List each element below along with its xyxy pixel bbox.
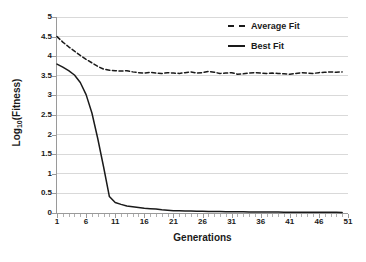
x-tick-mark <box>284 214 285 217</box>
x-tick-mark <box>86 214 87 218</box>
x-tick-mark <box>342 214 343 217</box>
x-tick-mark <box>313 214 314 217</box>
y-tick-mark <box>52 135 57 136</box>
x-tick-mark <box>63 214 64 217</box>
solid-line-icon <box>228 45 245 47</box>
x-tick-mark <box>272 214 273 217</box>
x-tick-mark <box>220 214 221 217</box>
x-tick-mark <box>296 214 297 217</box>
data-series-layer <box>57 17 348 213</box>
y-tick-mark <box>52 115 57 116</box>
x-tick-label: 21 <box>169 217 178 226</box>
x-tick-mark <box>92 214 93 217</box>
x-tick-mark <box>336 214 337 217</box>
x-tick-mark <box>249 214 250 217</box>
y-tick-mark <box>52 37 57 38</box>
series-line-best-fit <box>57 64 342 212</box>
x-tick-label: 11 <box>111 217 119 226</box>
x-tick-mark <box>191 214 192 217</box>
x-tick-label: 1 <box>55 217 59 226</box>
y-tick-label: 0.5 <box>41 188 52 197</box>
x-axis-tick-labels: 16111621263136414651 <box>0 217 366 229</box>
y-tick-mark <box>52 95 57 96</box>
x-tick-label: 51 <box>344 217 353 226</box>
y-tick-mark <box>52 17 57 18</box>
x-tick-mark <box>325 214 326 217</box>
x-tick-mark <box>156 214 157 217</box>
y-axis-title-subscript: 10 <box>16 120 23 128</box>
y-tick-mark <box>52 193 57 194</box>
x-tick-mark <box>74 214 75 217</box>
x-tick-mark <box>127 214 128 217</box>
x-tick-mark <box>115 214 116 218</box>
x-tick-label: 6 <box>84 217 88 226</box>
fitness-convergence-chart: 00.511.522.533.544.55 161116212631364146… <box>0 0 366 262</box>
y-tick-label: 3.5 <box>41 71 52 80</box>
x-axis-title: Generations <box>57 232 348 243</box>
x-tick-mark <box>267 214 268 217</box>
x-tick-mark <box>138 214 139 217</box>
x-tick-mark <box>173 214 174 218</box>
legend-entry-average-fit: Average Fit <box>228 20 300 31</box>
y-tick-mark <box>52 154 57 155</box>
x-tick-mark <box>179 214 180 217</box>
x-tick-mark <box>144 214 145 218</box>
x-tick-mark <box>232 214 233 218</box>
y-tick-label: 4.5 <box>41 32 52 41</box>
x-tick-mark <box>168 214 169 217</box>
y-axis-title: Log10(Fitness) <box>11 43 22 183</box>
x-tick-mark <box>255 214 256 217</box>
x-tick-mark <box>348 214 349 218</box>
legend-label-best-fit: Best Fit <box>251 41 284 51</box>
y-tick-mark <box>52 56 57 57</box>
x-tick-mark <box>104 214 105 217</box>
x-tick-mark <box>80 214 81 217</box>
x-tick-label: 41 <box>285 217 294 226</box>
dashed-line-icon <box>228 25 245 27</box>
x-tick-mark <box>57 214 58 218</box>
plot-area <box>57 17 348 213</box>
x-tick-mark <box>237 214 238 217</box>
x-tick-mark <box>208 214 209 217</box>
y-tick-mark <box>52 76 57 77</box>
x-tick-mark <box>203 214 204 218</box>
x-tick-mark <box>69 214 70 217</box>
x-tick-mark <box>121 214 122 217</box>
x-tick-mark <box>162 214 163 217</box>
x-tick-label: 26 <box>198 217 207 226</box>
x-tick-mark <box>133 214 134 217</box>
x-tick-mark <box>307 214 308 217</box>
legend-entry-best-fit: Best Fit <box>228 40 300 51</box>
y-axis-title-base: Log <box>11 128 22 146</box>
y-axis-title-tail: (Fitness) <box>11 79 22 121</box>
x-tick-mark <box>290 214 291 218</box>
x-tick-mark <box>150 214 151 217</box>
x-tick-mark <box>261 214 262 218</box>
legend-label-average-fit: Average Fit <box>251 21 300 31</box>
x-tick-mark <box>197 214 198 217</box>
y-tick-label: 2.5 <box>41 110 52 119</box>
x-tick-mark <box>319 214 320 218</box>
x-tick-mark <box>301 214 302 217</box>
chart-legend: Average Fit Best Fit <box>228 20 300 51</box>
x-tick-mark <box>278 214 279 217</box>
x-tick-label: 31 <box>227 217 236 226</box>
x-tick-mark <box>185 214 186 217</box>
x-tick-mark <box>109 214 110 217</box>
x-tick-mark <box>226 214 227 217</box>
x-tick-label: 36 <box>256 217 265 226</box>
x-tick-label: 46 <box>314 217 323 226</box>
x-tick-mark <box>331 214 332 217</box>
y-tick-mark <box>52 174 57 175</box>
x-tick-mark <box>214 214 215 217</box>
x-tick-mark <box>243 214 244 217</box>
x-tick-label: 16 <box>140 217 149 226</box>
x-tick-mark <box>98 214 99 217</box>
y-tick-label: 1.5 <box>41 149 52 158</box>
